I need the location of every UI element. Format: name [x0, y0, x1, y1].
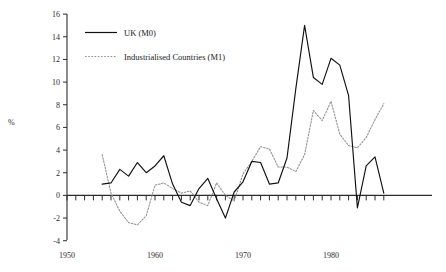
- chart-legend: UK (M0) Industrialised Countries (M1): [85, 28, 225, 62]
- series-line-industrialised-countries: [102, 101, 384, 225]
- x-tick-label: 1970: [235, 251, 251, 260]
- x-tick-label: 1960: [147, 251, 163, 260]
- x-tick-label: 1980: [323, 251, 339, 260]
- legend-label-uk: UK (M0): [124, 28, 156, 38]
- y-tick-label: 6: [56, 123, 60, 132]
- legend-label-industrialised-countries: Industrialised Countries (M1): [124, 52, 225, 62]
- y-axis-label: %: [8, 118, 15, 127]
- y-tick-label: 0: [56, 191, 60, 200]
- y-tick-label: 4: [56, 146, 60, 155]
- y-tick-label: 2: [56, 169, 60, 178]
- y-tick-label: 16: [52, 10, 60, 19]
- y-tick-label: 10: [52, 78, 60, 87]
- x-tick-label: 1950: [59, 251, 75, 260]
- chart-container: % -4-20246810121416 1950196019701980 UK …: [0, 0, 446, 272]
- y-axis-ticks: -4-20246810121416: [52, 10, 67, 246]
- y-tick-label: 14: [52, 33, 60, 42]
- x-axis-labels: 1950196019701980: [59, 251, 339, 260]
- y-tick-label: -4: [53, 237, 60, 246]
- x-axis-minor-ticks: [67, 195, 384, 200]
- line-chart: % -4-20246810121416 1950196019701980 UK …: [0, 0, 446, 272]
- y-tick-label: 12: [52, 55, 60, 64]
- y-tick-label: 8: [56, 101, 60, 110]
- y-tick-label: -2: [53, 214, 60, 223]
